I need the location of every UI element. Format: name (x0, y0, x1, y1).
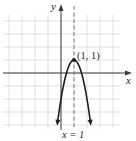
x-axis-label: x (126, 75, 131, 86)
axis-of-symmetry-label: x = 1 (62, 130, 84, 141)
y-axis-label: y (51, 1, 56, 12)
vertex-point (72, 58, 76, 62)
vertex-label: (1, 1) (77, 51, 100, 62)
parabola-plot (0, 0, 136, 141)
